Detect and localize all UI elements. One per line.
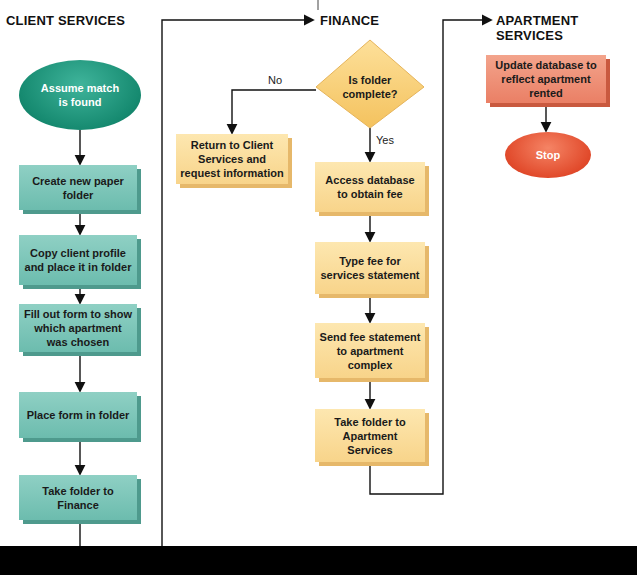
decision-label: Is folder complete? [336, 73, 404, 101]
step-create-folder: Create new paper folder [19, 165, 137, 210]
yes-label: Yes [376, 134, 394, 146]
step-place-form: Place form in folder [19, 392, 137, 438]
step-return-to-client: Return to Client Services and request in… [176, 134, 288, 184]
lane-title-finance: FINANCE [320, 13, 379, 28]
step-fill-form: Fill out form to show which apartment wa… [19, 304, 137, 352]
stop-oval: Stop [505, 132, 591, 178]
arrow-no [232, 90, 316, 132]
start-label: Assume match is found [40, 81, 120, 109]
no-label: No [268, 74, 282, 86]
stop-label: Stop [536, 148, 560, 162]
lane-title-client-services: CLIENT SERVICES [6, 13, 125, 28]
step-update-database: Update database to reflect apartment ren… [486, 55, 606, 103]
start-oval: Assume match is found [19, 60, 141, 130]
lane-title-apartment-services: APARTMENT SERVICES [496, 13, 637, 43]
step-send-statement: Send fee statement to apartment complex [315, 323, 425, 378]
step-take-to-finance: Take folder to Finance [19, 475, 137, 520]
step-copy-profile: Copy client profile and place it in fold… [19, 235, 137, 285]
footer-bar [0, 546, 637, 575]
step-take-to-apartment: Take folder to Apartment Services [315, 409, 425, 462]
step-access-database: Access database to obtain fee [315, 162, 425, 212]
step-type-fee: Type fee for services statement [315, 242, 425, 294]
